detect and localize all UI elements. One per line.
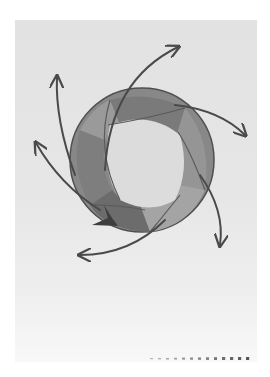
sketch-drawing: [0, 0, 270, 377]
shaded-ring: [70, 88, 214, 232]
dotted-line: [150, 356, 260, 362]
